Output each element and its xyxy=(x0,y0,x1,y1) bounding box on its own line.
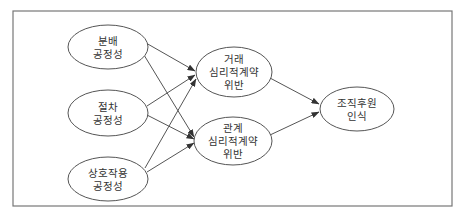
arrow-transactional-breach-to-pos xyxy=(270,78,319,104)
node-interactional: 상호작용공정성 xyxy=(68,157,148,201)
node-label-line: 심리적계약 xyxy=(209,66,259,78)
node-transactional-breach: 거래심리적계약위반 xyxy=(196,47,272,97)
node-label-line: 공정성 xyxy=(93,48,123,60)
arrow-interactional-to-transactional-breach xyxy=(145,79,196,168)
node-label-line: 관계 xyxy=(223,122,243,134)
node-label-line: 위반 xyxy=(223,148,243,160)
node-pos: 조직후원인식 xyxy=(320,87,394,131)
node-label-line: 절차 xyxy=(98,101,118,113)
node-label-line: 분배 xyxy=(98,35,118,47)
node-label-line: 공정성 xyxy=(93,180,123,192)
path-diagram: 분배공정성절차공정성상호작용공정성거래심리적계약위반관계심리적계약위반조직후원인… xyxy=(0,0,460,220)
node-procedural: 절차공정성 xyxy=(68,90,148,136)
arrow-procedural-to-relational-breach xyxy=(147,115,194,139)
node-label-line: 공정성 xyxy=(93,114,123,126)
node-label-line: 상호작용 xyxy=(88,167,128,179)
nodes-group: 분배공정성절차공정성상호작용공정성거래심리적계약위반관계심리적계약위반조직후원인… xyxy=(68,25,394,201)
arrow-distributive-to-transactional-breach xyxy=(146,43,195,71)
node-label-line: 심리적계약 xyxy=(208,135,258,147)
arrow-relational-breach-to-pos xyxy=(270,112,319,135)
node-label-line: 조직후원 xyxy=(337,97,377,109)
node-label-line: 거래 xyxy=(224,53,244,65)
arrow-interactional-to-relational-breach xyxy=(147,143,194,172)
node-distributive: 분배공정성 xyxy=(68,25,148,69)
node-label-line: 인식 xyxy=(347,110,367,122)
node-relational-breach: 관계심리적계약위반 xyxy=(194,117,272,165)
arrow-procedural-to-transactional-breach xyxy=(147,75,195,106)
node-label-line: 위반 xyxy=(224,79,244,91)
